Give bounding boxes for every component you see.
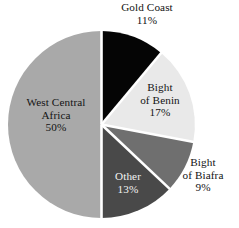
pie-chart-figure: Gold Coast 11% Bight of Benin 17% Bight … (0, 0, 239, 228)
pie-label-bight-of-benin-name-line1: Bight (128, 81, 192, 94)
pie-label-bight-of-benin-value: 17% (128, 106, 192, 119)
pie-label-bight-of-benin: Bight of Benin 17% (128, 81, 192, 119)
pie-label-bight-of-biafra-value: 9% (168, 181, 238, 194)
pie-label-bight-of-benin-name-line2: of Benin (128, 94, 192, 107)
pie-label-west-central-africa-value: 50% (15, 121, 97, 134)
pie-label-other-value: 13% (100, 183, 156, 196)
pie-label-west-central-africa-name-line2: Africa (15, 109, 97, 122)
pie-label-bight-of-biafra-name-line2: of Biafra (168, 169, 238, 182)
pie-label-other-name: Other (100, 170, 156, 183)
pie-label-gold-coast-value: 11% (99, 14, 195, 27)
pie-label-west-central-africa: West Central Africa 50% (15, 96, 97, 134)
pie-label-gold-coast-name: Gold Coast (99, 1, 195, 14)
pie-label-bight-of-biafra: Bight of Biafra 9% (168, 156, 238, 194)
pie-label-other: Other 13% (100, 170, 156, 195)
pie-label-west-central-africa-name-line1: West Central (15, 96, 97, 109)
pie-label-gold-coast: Gold Coast 11% (99, 1, 195, 26)
pie-label-bight-of-biafra-name-line1: Bight (168, 156, 238, 169)
